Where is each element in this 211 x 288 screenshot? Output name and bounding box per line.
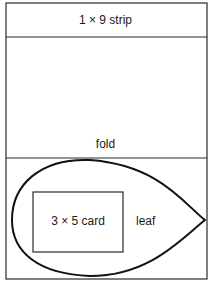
fold-label: fold: [0, 137, 211, 151]
leaf-label: leaf: [136, 214, 155, 228]
strip-label: 1 × 9 strip: [0, 13, 211, 27]
card-label: 3 × 5 card: [33, 214, 123, 228]
